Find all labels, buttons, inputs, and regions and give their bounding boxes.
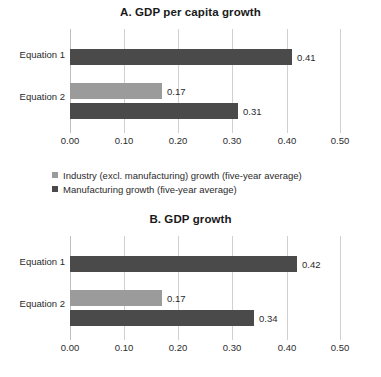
- chart-a-plot-area: Equation 1 0.41 0.17 Equation 2 0.31: [70, 29, 341, 133]
- chart-b-group-equation-2: 0.17 Equation 2 0.34: [70, 272, 341, 326]
- chart-a-category-label-2: Equation 2: [20, 91, 65, 102]
- chart-a-title: A. GDP per capita growth: [0, 6, 381, 18]
- chart-a-xtick-5: 0.50: [331, 135, 350, 146]
- chart-b-bar-row-eq1-manufacturing: Equation 1 0.42: [70, 256, 341, 272]
- chart-panel-a: A. GDP per capita growth Equation 1 0.41…: [0, 6, 381, 149]
- chart-b-plot-area: Equation 1 0.42 0.17 Equation 2 0.34: [70, 236, 341, 340]
- chart-b-category-label-1: Equation 1: [20, 256, 65, 267]
- chart-a-xtick-0: 0.00: [61, 135, 80, 146]
- chart-b-value-eq2-manufacturing: 0.34: [259, 313, 278, 324]
- legend-swatch-industry-icon: [52, 172, 58, 178]
- chart-a-bar-eq1-manufacturing[interactable]: [70, 49, 292, 65]
- chart-a-bar-row-eq1-manufacturing: Equation 1 0.41: [70, 49, 341, 65]
- chart-a-value-eq2-industry: 0.17: [167, 86, 186, 97]
- chart-a-x-axis: 0.00 0.10 0.20 0.30 0.40 0.50: [70, 133, 341, 149]
- chart-b-bar-row-eq2-manufacturing: Equation 2 0.34: [70, 310, 341, 326]
- chart-b-category-label-2: Equation 2: [20, 298, 65, 309]
- chart-b-bar-eq1-manufacturing[interactable]: [70, 256, 297, 272]
- chart-a-xtick-4: 0.40: [278, 135, 297, 146]
- chart-b-bar-eq2-industry[interactable]: [70, 290, 162, 306]
- chart-b-title: B. GDP growth: [0, 213, 381, 225]
- chart-b-bar-row-eq2-industry: 0.17: [70, 290, 341, 306]
- chart-b-value-eq1-manufacturing: 0.42: [302, 259, 321, 270]
- chart-b-value-eq2-industry: 0.17: [167, 293, 186, 304]
- chart-a-xtick-2: 0.20: [169, 135, 188, 146]
- chart-a-bar-row-eq2-industry: 0.17: [70, 83, 341, 99]
- chart-b-xtick-3: 0.30: [223, 342, 242, 353]
- chart-legend: Industry (excl. manufacturing) growth (f…: [52, 168, 302, 196]
- chart-a-bar-row-eq2-manufacturing: Equation 2 0.31: [70, 103, 341, 119]
- chart-a-group-equation-1: Equation 1 0.41: [70, 29, 341, 65]
- legend-item-industry[interactable]: Industry (excl. manufacturing) growth (f…: [52, 168, 302, 182]
- chart-b-xtick-4: 0.40: [278, 342, 297, 353]
- chart-b-bar-eq2-manufacturing[interactable]: [70, 310, 254, 326]
- chart-b-xtick-1: 0.10: [115, 342, 134, 353]
- legend-item-manufacturing[interactable]: Manufacturing growth (five-year average): [52, 182, 302, 196]
- chart-a-category-label-1: Equation 1: [20, 49, 65, 60]
- chart-b-xtick-5: 0.50: [331, 342, 350, 353]
- chart-b-x-axis: 0.00 0.10 0.20 0.30 0.40 0.50: [70, 340, 341, 356]
- legend-label-industry: Industry (excl. manufacturing) growth (f…: [63, 170, 302, 181]
- chart-b-xtick-2: 0.20: [169, 342, 188, 353]
- chart-a-bar-eq2-industry[interactable]: [70, 83, 162, 99]
- legend-label-manufacturing: Manufacturing growth (five-year average): [63, 184, 237, 195]
- chart-a-value-eq1-manufacturing: 0.41: [297, 52, 316, 63]
- chart-panel-b: B. GDP growth Equation 1 0.42 0.17 Equat…: [0, 213, 381, 356]
- chart-b-xtick-0: 0.00: [61, 342, 80, 353]
- chart-a-bar-eq2-manufacturing[interactable]: [70, 103, 238, 119]
- legend-swatch-manufacturing-icon: [52, 186, 58, 192]
- chart-b-group-equation-1: Equation 1 0.42: [70, 236, 341, 272]
- chart-a-xtick-1: 0.10: [115, 135, 134, 146]
- chart-a-xtick-3: 0.30: [223, 135, 242, 146]
- chart-a-group-equation-2: 0.17 Equation 2 0.31: [70, 65, 341, 119]
- chart-a-value-eq2-manufacturing: 0.31: [243, 106, 262, 117]
